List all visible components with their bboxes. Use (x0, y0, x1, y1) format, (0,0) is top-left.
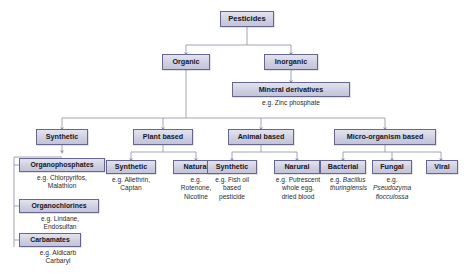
node-mineral-derivatives[interactable]: Mineral derivatives (232, 82, 350, 97)
caption-line: e.g. (362, 176, 422, 184)
node-animal-synthetic[interactable]: Synthetic (207, 160, 257, 174)
node-plant-synthetic[interactable]: Synthetic (106, 160, 156, 174)
caption-animal-synthetic-example: e.g. Fish oil based pesticide (202, 176, 262, 201)
node-synthetic-organic[interactable]: Synthetic (36, 129, 88, 145)
caption-plant-synthetic-example: e.g. Allethrin, Captan (100, 176, 162, 193)
caption-line: e.g. Lindane, (16, 215, 104, 223)
node-viral[interactable]: Viral (426, 160, 458, 174)
node-fungal[interactable]: Fungal (372, 160, 412, 174)
caption-line: Malathion (16, 182, 108, 190)
pesticides-classification-diagram: Pesticides Organic Inorganic Mineral der… (0, 0, 476, 280)
caption-line: based (202, 184, 262, 192)
node-pesticides[interactable]: Pesticides (220, 11, 274, 27)
caption-line: Captan (100, 184, 162, 192)
caption-prefix: e.g. (330, 176, 343, 183)
node-carbamates[interactable]: Carbamates (19, 233, 81, 247)
caption-line: e.g. Putrescent (266, 176, 330, 184)
caption-line: Endosulfan (16, 223, 104, 231)
caption-species: Pseudozyma (373, 184, 411, 191)
caption-organophosphates-example: e.g. Chlorpyrifos, Malathion (16, 174, 108, 191)
caption-mineral-derivatives-example: e.g. Zinc phosphate (232, 99, 350, 107)
caption-line: pesticide (202, 193, 262, 201)
caption-fungal-example: e.g. Pseudozyma flocculossa (362, 176, 422, 201)
node-inorganic[interactable]: Inorganic (264, 54, 318, 70)
caption-animal-natural-example: e.g. Putrescent whole egg, dried blood (266, 176, 330, 201)
node-organic[interactable]: Organic (162, 54, 210, 70)
caption-line: e.g. Allethrin, (100, 176, 162, 184)
caption-carbamates-example: e.g. Aldicarb Carbaryl (14, 249, 102, 266)
caption-line: Pseudozyma (362, 184, 422, 192)
node-micro-organism-based[interactable]: Micro-organism based (334, 129, 436, 145)
caption-line: e.g. Fish oil (202, 176, 262, 184)
caption-species: flocculossa (376, 193, 409, 200)
node-organochlorines[interactable]: Organochlorines (19, 199, 99, 213)
caption-organochlorines-example: e.g. Lindane, Endosulfan (16, 215, 104, 232)
caption-line: dried blood (266, 193, 330, 201)
caption-line: flocculossa (362, 193, 422, 201)
node-organophosphates[interactable]: Organophosphates (19, 158, 105, 172)
caption-line: Carbaryl (14, 257, 102, 265)
caption-line: whole egg, (266, 184, 330, 192)
node-plant-based[interactable]: Plant based (133, 129, 193, 145)
caption-line: e.g. Aldicarb (14, 249, 102, 257)
node-animal-natural[interactable]: Narural (274, 160, 320, 174)
node-bacterial[interactable]: Bacterial (320, 160, 366, 174)
caption-line: e.g. Chlorpyrifos, (16, 174, 108, 182)
node-animal-based[interactable]: Animal based (228, 129, 294, 145)
